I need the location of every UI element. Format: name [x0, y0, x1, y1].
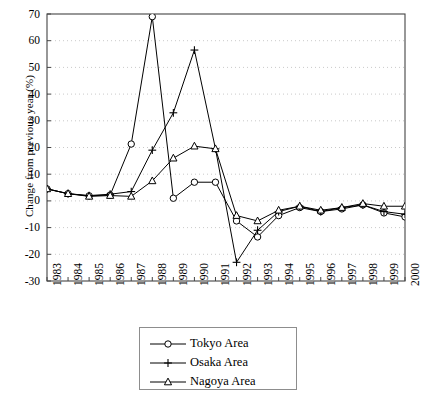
series-line [47, 146, 405, 221]
data-point-marker [191, 46, 199, 54]
data-point-marker [191, 142, 198, 149]
data-point-marker [149, 13, 155, 19]
legend-item-osaka-area: Osaka Area [148, 353, 248, 372]
data-point-marker [169, 109, 177, 117]
data-point-marker [233, 258, 241, 266]
legend-marker-plus-icon [148, 355, 188, 371]
data-point-marker [170, 154, 177, 161]
data-point-marker [170, 195, 176, 201]
legend-label: Osaka Area [190, 355, 248, 370]
data-point-marker [164, 359, 172, 367]
series-line [47, 50, 405, 262]
data-point-marker [233, 212, 240, 219]
legend-label: Tokyo Area [190, 336, 248, 351]
legend-marker-circle-icon [148, 336, 188, 352]
legend-marker-triangle-icon [148, 374, 188, 390]
data-point-marker [254, 234, 260, 240]
legend-item-tokyo-area: Tokyo Area [148, 334, 248, 353]
data-point-marker [128, 141, 134, 147]
data-point-marker [165, 340, 171, 346]
legend-item-nagoya-area: Nagoya Area [148, 372, 256, 391]
series-osaka-area [43, 46, 409, 266]
chart-legend: Tokyo AreaOsaka AreaNagoya Area [139, 327, 297, 390]
data-point-marker [191, 179, 197, 185]
data-point-marker [212, 179, 218, 185]
legend-label: Nagoya Area [190, 374, 256, 389]
series-nagoya-area [43, 142, 408, 223]
data-point-marker [401, 202, 408, 209]
data-point-marker [164, 378, 171, 385]
